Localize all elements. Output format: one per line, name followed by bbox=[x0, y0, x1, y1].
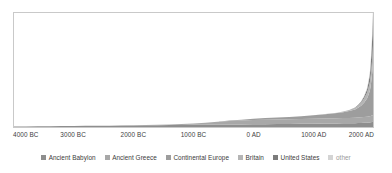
x-tick-label: 4000 BC bbox=[13, 131, 39, 138]
area-series bbox=[14, 13, 373, 127]
legend-swatch-icon bbox=[238, 155, 243, 160]
x-tick-label: 2000 AD bbox=[349, 131, 374, 138]
legend-label: other bbox=[336, 154, 351, 161]
plot-area bbox=[13, 12, 374, 128]
stacked-area-chart-figure: 4000 BC3000 BC2000 BC1000 BC0 AD1000 AD2… bbox=[0, 0, 392, 173]
legend-item[interactable]: Ancient Greece bbox=[105, 154, 157, 161]
legend-item[interactable]: United States bbox=[273, 154, 320, 161]
area-series bbox=[14, 15, 373, 126]
x-tick-label: 2000 BC bbox=[121, 131, 147, 138]
x-tick-label: 3000 BC bbox=[60, 131, 86, 138]
plot-svg bbox=[14, 13, 373, 127]
chart-legend: Ancient BabylonAncient GreeceContinental… bbox=[0, 149, 392, 165]
area-series bbox=[14, 63, 373, 127]
legend-item[interactable]: other bbox=[328, 154, 350, 161]
legend-item[interactable]: Britain bbox=[238, 154, 264, 161]
area-series bbox=[14, 45, 373, 127]
legend-item[interactable]: Continental Europe bbox=[166, 154, 229, 161]
x-tick-label: 1000 BC bbox=[181, 131, 207, 138]
legend-label: Ancient Babylon bbox=[49, 154, 96, 161]
x-tick-label: 0 AD bbox=[247, 131, 261, 138]
x-axis: 4000 BC3000 BC2000 BC1000 BC0 AD1000 AD2… bbox=[13, 129, 374, 145]
legend-swatch-icon bbox=[328, 155, 333, 160]
legend-item[interactable]: Ancient Babylon bbox=[41, 154, 95, 161]
legend-label: Ancient Greece bbox=[112, 154, 157, 161]
series-layers bbox=[14, 13, 373, 127]
legend-swatch-icon bbox=[105, 155, 110, 160]
legend-swatch-icon bbox=[41, 155, 46, 160]
legend-label: Britain bbox=[246, 154, 264, 161]
legend-label: United States bbox=[280, 154, 319, 161]
legend-swatch-icon bbox=[166, 155, 171, 160]
x-tick-label: 1000 AD bbox=[301, 131, 326, 138]
legend-label: Continental Europe bbox=[173, 154, 229, 161]
legend-swatch-icon bbox=[273, 155, 278, 160]
